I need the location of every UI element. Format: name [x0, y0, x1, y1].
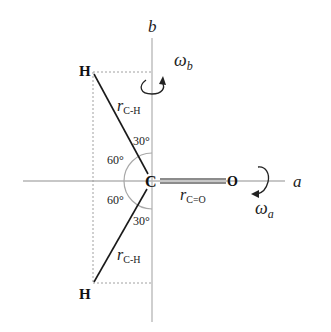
angle-label-top-inner: 30° [133, 134, 150, 148]
atom-c: C [145, 173, 157, 190]
omega-a-label: ωa [255, 198, 274, 221]
angle-label-bottom-inner: 30° [133, 214, 150, 228]
rotation-b-icon [141, 76, 166, 94]
rotation-a-icon [251, 167, 269, 198]
bond-label-c-h-bottom: rC-H [117, 246, 140, 265]
angle-label-top-outer: 60° [107, 153, 124, 167]
atom-o: O [227, 174, 238, 189]
omega-b-label: ωb [174, 50, 193, 73]
bond-label-c-h-top: rC-H [117, 97, 140, 116]
atom-h-bottom: H [79, 286, 91, 302]
axis-label-a: a [293, 172, 302, 191]
bond-label-c-o: rC=O [180, 186, 206, 205]
axis-label-b: b [148, 17, 157, 36]
formaldehyde-diagram: H H C O b a ωb ωa rC-H rC-H rC=O 30° 60°… [0, 0, 331, 332]
angle-label-bottom-outer: 60° [107, 193, 124, 207]
atom-h-top: H [79, 63, 91, 79]
